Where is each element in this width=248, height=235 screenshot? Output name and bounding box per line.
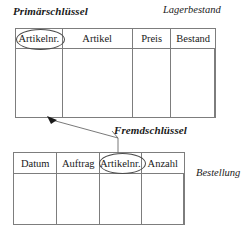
relationship-connector xyxy=(0,0,248,235)
er-diagram-canvas: Primärschlüssel Lagerbestand Fremdschlüs… xyxy=(0,0,248,235)
connector-arrowhead xyxy=(47,116,57,124)
connector-diagonal-segment xyxy=(52,120,118,138)
